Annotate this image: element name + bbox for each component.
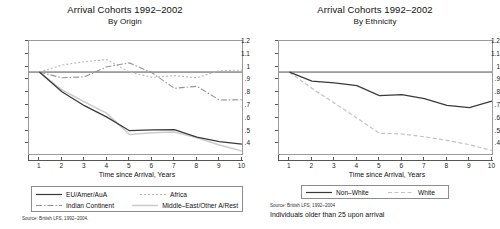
x-tick-label: 4 xyxy=(105,162,109,169)
y-tick-label: .9 xyxy=(477,75,500,82)
y-tick-label: .4 xyxy=(227,139,250,146)
x-tick-label: 3 xyxy=(332,162,336,169)
x-tick-mark xyxy=(491,157,492,160)
legend-label-middle-east: Middle–East/Other A/Rest xyxy=(162,202,238,210)
y-tick-label: .4 xyxy=(477,139,500,146)
plot-area-left xyxy=(28,40,243,155)
legend-label-white: White xyxy=(418,189,435,197)
y-tick-label: 1.2 xyxy=(227,37,250,44)
legend-item-middle-east[interactable]: Middle–East/Other A/Rest xyxy=(132,200,238,211)
legend-swatch-non-white xyxy=(306,189,332,196)
x-tick-mark xyxy=(468,157,469,160)
x-tick-mark xyxy=(83,157,84,160)
x-tick-mark xyxy=(61,157,62,160)
y-tick-label: 1 xyxy=(477,62,500,69)
y-tick-mark xyxy=(25,40,28,41)
x-tick-mark xyxy=(401,157,402,160)
y-tick-mark xyxy=(275,53,278,54)
series-line-white xyxy=(289,72,492,150)
y-tick-label: 1.2 xyxy=(477,37,500,44)
legend-swatch-indian-continent xyxy=(36,202,62,209)
x-tick-label: 10 xyxy=(488,162,495,169)
x-tick-mark xyxy=(218,157,219,160)
legend-label-non-white: Non–White xyxy=(336,189,369,197)
y-tick-mark xyxy=(25,53,28,54)
x-tick-label: 8 xyxy=(445,162,449,169)
x-tick-mark xyxy=(423,157,424,160)
y-axis-stub-left xyxy=(28,155,29,160)
y-tick-mark xyxy=(275,104,278,105)
y-tick-mark xyxy=(25,142,28,143)
legend-item-non-white[interactable]: Non–White xyxy=(306,187,388,198)
legend-item-eu-amer-aua[interactable]: EU/Amer/AuA xyxy=(36,189,140,200)
panel-title-right: Arrival Cohorts 1992–2002 xyxy=(250,4,500,15)
x-tick-label: 1 xyxy=(37,162,41,169)
panel-by-origin: Arrival Cohorts 1992–2002 By Origin xyxy=(0,0,250,229)
y-tick-mark xyxy=(25,66,28,67)
x-tick-mark xyxy=(446,157,447,160)
x-tick-label: 8 xyxy=(195,162,199,169)
figure-root: Arrival Cohorts 1992–2002 By Origin xyxy=(0,0,500,229)
y-tick-mark xyxy=(25,130,28,131)
y-tick-mark xyxy=(275,78,278,79)
panel-by-ethnicity: Arrival Cohorts 1992–2002 By Ethnicity 1… xyxy=(250,0,500,229)
legend-label-indian-continent: Indian Continent xyxy=(66,202,114,210)
legend-right: Non–White White xyxy=(301,185,449,199)
y-tick-mark xyxy=(275,40,278,41)
x-tick-mark xyxy=(151,157,152,160)
panel-subtitle-left: By Origin xyxy=(0,17,250,26)
legend-item-africa[interactable]: Africa xyxy=(140,189,187,200)
x-tick-label: 4 xyxy=(355,162,359,169)
y-tick-label: 1.1 xyxy=(227,49,250,56)
x-tick-mark xyxy=(128,157,129,160)
x-tick-mark xyxy=(241,157,242,160)
y-tick-label: .8 xyxy=(477,88,500,95)
x-tick-mark xyxy=(106,157,107,160)
y-tick-label: 1 xyxy=(227,62,250,69)
x-tick-mark xyxy=(333,157,334,160)
series-line-non-white xyxy=(289,72,492,108)
x-tick-mark xyxy=(173,157,174,160)
x-axis-label-right: Time since Arrival, Years xyxy=(349,171,425,178)
y-tick-mark xyxy=(25,91,28,92)
series-line-middle-east xyxy=(39,72,242,151)
x-tick-label: 6 xyxy=(400,162,404,169)
legend-swatch-africa xyxy=(140,191,166,198)
plot-area-right xyxy=(278,40,493,155)
y-tick-mark xyxy=(275,66,278,67)
legend-item-indian-continent[interactable]: Indian Continent xyxy=(36,200,132,211)
x-tick-mark xyxy=(38,157,39,160)
x-tick-label: 5 xyxy=(127,162,131,169)
x-tick-label: 5 xyxy=(377,162,381,169)
legend-swatch-middle-east xyxy=(132,202,158,209)
x-tick-mark xyxy=(378,157,379,160)
y-tick-label: .7 xyxy=(477,101,500,108)
x-tick-label: 10 xyxy=(238,162,245,169)
legend-label-africa: Africa xyxy=(170,191,187,199)
x-tick-mark xyxy=(311,157,312,160)
x-tick-label: 7 xyxy=(172,162,176,169)
legend-left: EU/Amer/AuA Africa Indian Continent xyxy=(31,186,243,212)
x-axis-line-left xyxy=(28,160,243,161)
plot-lines-left xyxy=(29,41,242,154)
x-tick-label: 3 xyxy=(82,162,86,169)
y-tick-label: .5 xyxy=(227,126,250,133)
legend-row: Indian Continent Middle–East/Other A/Res… xyxy=(36,200,238,211)
source-note-left: Source: British LFS, 1992–2004. xyxy=(22,216,88,221)
y-tick-label: .7 xyxy=(227,101,250,108)
legend-label-eu-amer-aua: EU/Amer/AuA xyxy=(66,191,107,199)
x-tick-mark xyxy=(356,157,357,160)
legend-row: Non–White White xyxy=(306,187,444,198)
y-tick-mark xyxy=(275,142,278,143)
y-tick-label: .5 xyxy=(477,126,500,133)
plot-lines-right xyxy=(279,41,492,154)
x-tick-mark xyxy=(196,157,197,160)
source-note-right: Source: British LFS, 1992–2004 xyxy=(270,203,335,208)
legend-item-white[interactable]: White xyxy=(388,187,435,198)
y-tick-label: .9 xyxy=(227,75,250,82)
y-tick-mark xyxy=(25,78,28,79)
x-tick-label: 2 xyxy=(60,162,64,169)
x-tick-label: 9 xyxy=(467,162,471,169)
panel-title-left: Arrival Cohorts 1992–2002 xyxy=(0,4,250,15)
x-tick-label: 7 xyxy=(422,162,426,169)
